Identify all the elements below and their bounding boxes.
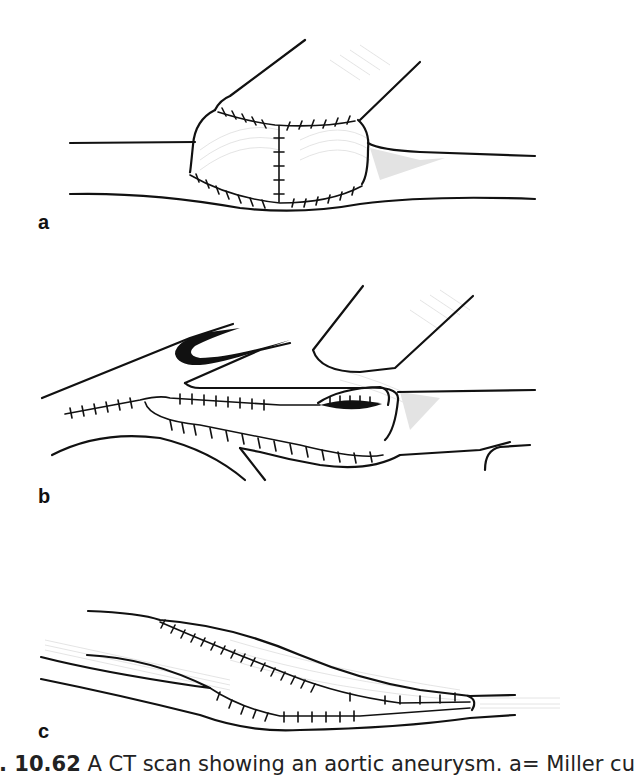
- panel-a-branch-right: [360, 62, 420, 120]
- caption-text: A CT scan showing an aortic aneurysm. a=…: [81, 752, 635, 775]
- panel-a: a: [0, 0, 591, 240]
- panel-c-label: c: [38, 720, 49, 743]
- panel-c-vessel-top: [88, 611, 515, 696]
- panel-b-instrument: [313, 286, 473, 372]
- panel-b-label: b: [38, 485, 50, 508]
- panel-c-branch: [41, 655, 210, 688]
- panel-c: c: [0, 570, 591, 740]
- panel-b: b: [0, 280, 591, 510]
- panel-b-illustration: [0, 280, 591, 510]
- panel-c-suture-stitches: [161, 620, 455, 722]
- panel-b-shadow: [400, 392, 440, 430]
- panel-a-label: a: [38, 211, 49, 234]
- panel-a-branch-left: [215, 40, 305, 110]
- panel-c-illustration: [0, 570, 591, 740]
- panel-a-vessel-top-left: [70, 142, 195, 143]
- panel-b-vessel-right: [398, 390, 535, 392]
- panel-a-patch-right: [358, 120, 368, 184]
- panel-b-lower-vessel-left: [52, 436, 245, 480]
- panel-b-lower-vessel-right: [240, 442, 510, 467]
- panel-b-graft-outline: [185, 383, 398, 440]
- panel-a-illustration: [0, 0, 591, 240]
- panel-b-right-branch: [485, 445, 530, 470]
- panel-a-hatching: [200, 45, 390, 170]
- panel-a-suture-top: [218, 112, 355, 126]
- panel-c-vessel-bottom: [41, 679, 515, 730]
- figure-caption: g. 10.62 A CT scan showing an aortic ane…: [0, 752, 620, 775]
- panel-a-patch-left: [190, 110, 215, 172]
- figure-number: g. 10.62: [0, 752, 81, 775]
